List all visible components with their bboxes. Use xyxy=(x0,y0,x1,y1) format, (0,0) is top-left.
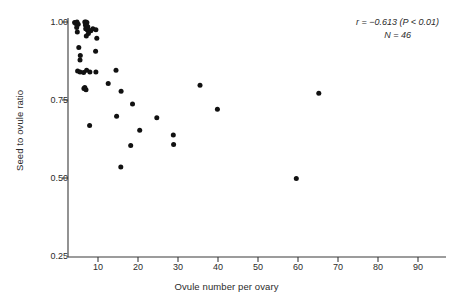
data-point xyxy=(198,83,203,88)
data-point xyxy=(94,36,99,41)
data-point xyxy=(316,91,321,96)
data-point xyxy=(87,69,92,74)
y-axis-ticks xyxy=(62,22,68,178)
data-point xyxy=(74,25,79,30)
data-point xyxy=(137,128,142,133)
data-point xyxy=(93,49,98,54)
data-point xyxy=(76,45,81,50)
data-point xyxy=(75,29,80,34)
data-point-group xyxy=(72,20,321,182)
data-point xyxy=(171,142,176,147)
data-point xyxy=(114,68,119,73)
data-point xyxy=(130,102,135,107)
axis-lines xyxy=(68,18,446,257)
plot-canvas xyxy=(0,0,453,306)
data-point xyxy=(118,165,123,170)
x-axis-ticks xyxy=(98,257,418,262)
data-point xyxy=(84,87,89,92)
data-point xyxy=(128,143,133,148)
data-point xyxy=(84,34,89,39)
data-point xyxy=(87,123,92,128)
data-point xyxy=(93,27,98,32)
data-point xyxy=(114,114,119,119)
data-point xyxy=(106,81,111,86)
data-point xyxy=(93,69,98,74)
data-point xyxy=(78,53,83,58)
data-point xyxy=(119,89,124,94)
data-point xyxy=(78,58,83,63)
data-point xyxy=(154,115,159,120)
data-point xyxy=(294,176,299,181)
data-point xyxy=(171,132,176,137)
data-point xyxy=(215,107,220,112)
scatter-plot-figure: Seed to ovule ratio 1.00 0.75 0.50 0.25 … xyxy=(0,0,453,306)
